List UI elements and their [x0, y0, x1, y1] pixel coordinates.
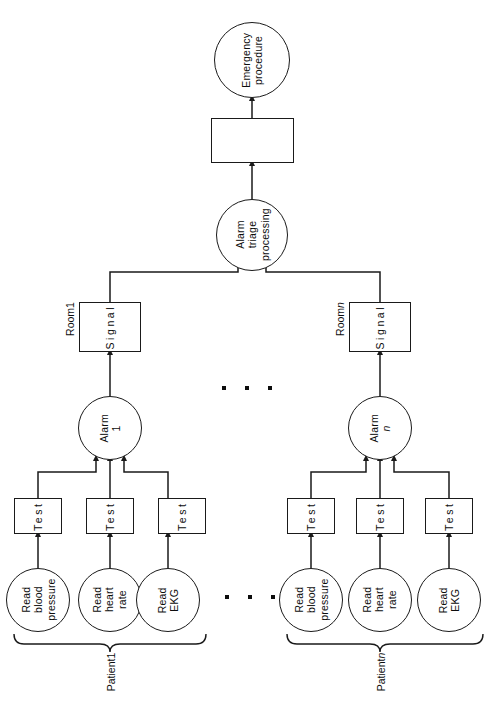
patient-n-caption: Patient n — [374, 649, 388, 695]
ellipsis-dot — [225, 595, 229, 599]
room-1-caption: Room 1 — [63, 297, 77, 341]
node-patient-n-test-1[interactable]: Test — [287, 498, 335, 534]
alarm-triage-processing-label: Alarm triage processing — [233, 209, 270, 262]
patient-1-caption: Patient 1 — [104, 649, 118, 695]
node-emergency-procedure[interactable]: Emergency procedure — [214, 22, 290, 98]
node-patient-n-read-ekg[interactable]: Read EKG — [417, 568, 481, 632]
ellipsis-dot — [271, 595, 275, 599]
ellipsis-dot — [222, 386, 226, 390]
alarm-1-label: Alarm 1 — [98, 414, 123, 442]
patient-1-test-2-label: Test — [104, 501, 116, 531]
node-unlabeled-process[interactable] — [211, 118, 294, 163]
patient-n-test-1-label: Test — [305, 501, 317, 531]
node-room-1-signal[interactable]: Signal — [79, 302, 141, 352]
room-n-signal-label: Signal — [374, 305, 386, 350]
node-patient-1-read-blood-pressure[interactable]: Read blood pressure — [6, 568, 70, 632]
ellipsis-dot — [245, 386, 249, 390]
node-room-n-signal[interactable]: Signal — [349, 302, 411, 352]
patient-1-test-1-label: Test — [32, 501, 44, 531]
node-patient-n-read-heart-rate[interactable]: Read heart rate — [348, 568, 412, 632]
patient-1-read-heart-rate-label: Read heart rate — [91, 587, 128, 613]
room-n-caption: Room n — [333, 297, 347, 341]
node-patient-n-test-2[interactable]: Test — [356, 498, 404, 534]
patient-n-read-heart-rate-label: Read heart rate — [361, 587, 398, 613]
ellipsis-read-level — [225, 595, 275, 599]
room-1-signal-label: Signal — [104, 305, 116, 350]
node-alarm-n[interactable]: Alarm n — [348, 396, 412, 460]
patient-1-read-ekg-label: Read EKG — [156, 587, 181, 613]
patient-n-test-2-label: Test — [374, 501, 386, 531]
patient-n-test-3-label: Test — [443, 501, 455, 531]
node-patient-1-test-3[interactable]: Test — [158, 498, 206, 534]
diagram-canvas: Emergency procedure Alarm triage process… — [0, 0, 504, 701]
node-patient-n-test-3[interactable]: Test — [425, 498, 473, 534]
patient-n-read-ekg-label: Read EKG — [437, 587, 462, 613]
emergency-procedure-label: Emergency procedure — [240, 33, 265, 88]
node-patient-1-test-2[interactable]: Test — [86, 498, 134, 534]
node-alarm-1[interactable]: Alarm 1 — [78, 396, 142, 460]
patient-1-test-3-label: Test — [176, 501, 188, 531]
node-patient-n-read-blood-pressure[interactable]: Read blood pressure — [279, 568, 343, 632]
alarm-n-label: Alarm n — [368, 414, 393, 442]
ellipsis-dot — [248, 595, 252, 599]
ellipsis-alarm-level — [222, 386, 272, 390]
node-patient-1-test-1[interactable]: Test — [14, 498, 62, 534]
patient-1-read-blood-pressure-label: Read blood pressure — [19, 579, 56, 621]
node-patient-1-read-ekg[interactable]: Read EKG — [136, 568, 200, 632]
node-alarm-triage-processing[interactable]: Alarm triage processing — [216, 199, 288, 271]
node-patient-1-read-heart-rate[interactable]: Read heart rate — [78, 568, 142, 632]
ellipsis-dot — [268, 386, 272, 390]
patient-n-read-blood-pressure-label: Read blood pressure — [292, 579, 329, 621]
